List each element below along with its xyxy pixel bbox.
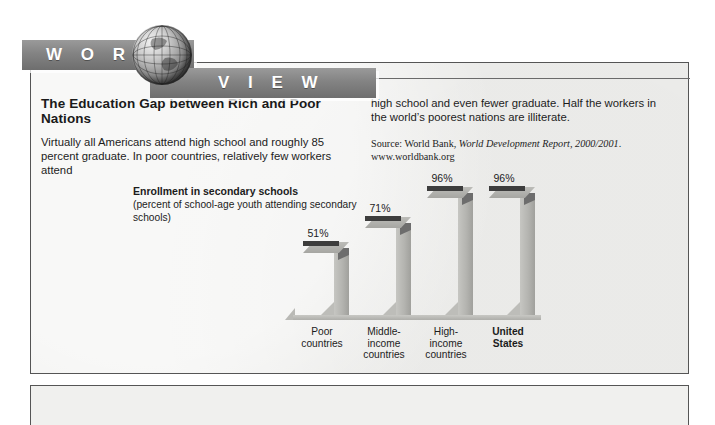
- article-body-right: high school and even fewer graduate. Hal…: [371, 96, 671, 124]
- article-body-left: Virtually all Americans attend high scho…: [41, 135, 337, 177]
- bar-category-label: UnitedStates: [475, 326, 541, 349]
- world-view-banner: W O R L D V I E W: [0, 20, 715, 100]
- bar-category-label: Poorcountries: [289, 326, 355, 349]
- source-publication-title: World Development Report, 2000/2001: [459, 138, 619, 149]
- chart-floor: [293, 315, 541, 320]
- bar-column: [396, 228, 411, 315]
- enrollment-bar-chart: Enrollment in secondary schools (percent…: [41, 180, 681, 360]
- bar-footing: [507, 302, 520, 315]
- bar-4: [489, 198, 535, 315]
- source-suffix: .: [619, 138, 622, 149]
- bar-footing: [445, 302, 458, 315]
- bar-footing: [321, 302, 334, 315]
- bar-value-label: 71%: [350, 202, 410, 214]
- bar-category-label: High-incomecountries: [413, 326, 479, 361]
- bar-footing: [383, 302, 396, 315]
- bar-1: [303, 253, 349, 315]
- bar-value-label: 96%: [412, 172, 472, 184]
- source-prefix: Source: World Bank,: [371, 138, 459, 149]
- page-title: The Education Gap between Rich and Poor …: [41, 96, 337, 126]
- bar-2: [365, 228, 411, 315]
- bar-3: [427, 198, 473, 315]
- next-section-box: [30, 385, 689, 425]
- bar-category-label: Middle-incomecountries: [351, 326, 417, 361]
- bar-value-label: 96%: [474, 172, 534, 184]
- bar-column: [458, 198, 473, 315]
- chart-plot-area: 51%Poorcountries71%Middle-incomecountrie…: [285, 180, 575, 360]
- source-citation: Source: World Bank, World Development Re…: [371, 138, 671, 163]
- bar-value-label: 51%: [288, 227, 348, 239]
- article-left-column: The Education Gap between Rich and Poor …: [41, 96, 337, 177]
- article-right-column: high school and even fewer graduate. Hal…: [371, 96, 671, 163]
- bar-column: [334, 253, 349, 315]
- source-url: www.worldbank.org: [371, 151, 454, 162]
- globe-icon: [132, 25, 192, 85]
- bar-column: [520, 198, 535, 315]
